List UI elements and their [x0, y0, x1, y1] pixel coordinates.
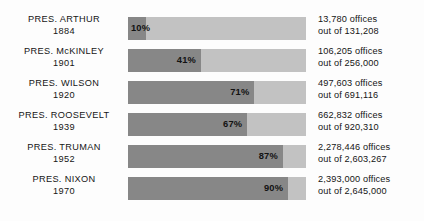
president-name: PRES. TRUMAN	[0, 142, 128, 154]
bar-percent-label: 90%	[264, 177, 283, 200]
offices-count: 662,832 offices	[318, 110, 424, 122]
offices-total: out of 256,000	[318, 58, 424, 70]
bar-wrapper: 41%	[128, 45, 306, 72]
row-value: 106,205 offices out of 256,000	[306, 45, 424, 69]
row-label: PRES. TRUMAN 1952	[0, 141, 128, 165]
president-year: 1939	[0, 122, 128, 134]
offices-count: 13,780 offices	[318, 14, 424, 26]
bar-percent-label: 67%	[223, 113, 242, 136]
bar-percent-label: 87%	[259, 145, 278, 168]
bar-percent-label: 41%	[177, 49, 196, 72]
row-value: 13,780 offices out of 131,208	[306, 13, 424, 37]
bar-wrapper: 90%	[128, 173, 306, 200]
chart-rows: PRES. ARTHUR 1884 10% 13,780 offices out…	[0, 13, 424, 205]
bar-track: 67%	[128, 113, 306, 136]
offices-total: out of 2,603,267	[318, 154, 424, 166]
bar-track: 71%	[128, 81, 306, 104]
bar-track: 41%	[128, 49, 306, 72]
chart-row: PRES. ARTHUR 1884 10% 13,780 offices out…	[0, 13, 424, 45]
bar-wrapper: 10%	[128, 13, 306, 40]
chart-row: PRES. TRUMAN 1952 87% 2,278,446 offices …	[0, 141, 424, 173]
president-year: 1952	[0, 154, 128, 166]
row-label: PRES. NIXON 1970	[0, 173, 128, 197]
chart-row: PRES. McKINLEY 1901 41% 106,205 offices …	[0, 45, 424, 77]
president-year: 1970	[0, 186, 128, 198]
bar-percent-label: 10%	[131, 17, 150, 40]
offices-total: out of 2,645,000	[318, 186, 424, 198]
offices-total: out of 691,116	[318, 90, 424, 102]
row-label: PRES. WILSON 1920	[0, 77, 128, 101]
president-name: PRES. WILSON	[0, 78, 128, 90]
bar-track: 90%	[128, 177, 306, 200]
offices-count: 2,278,446 offices	[318, 142, 424, 154]
offices-count: 106,205 offices	[318, 46, 424, 58]
row-label: PRES. ROOSEVELT 1939	[0, 109, 128, 133]
chart-container: PRES. ARTHUR 1884 10% 13,780 offices out…	[0, 0, 424, 221]
offices-total: out of 920,310	[318, 122, 424, 134]
bar-track: 10%	[128, 17, 306, 40]
offices-count: 497,603 offices	[318, 78, 424, 90]
row-value: 2,393,000 offices out of 2,645,000	[306, 173, 424, 197]
row-value: 662,832 offices out of 920,310	[306, 109, 424, 133]
president-name: PRES. McKINLEY	[0, 46, 128, 58]
president-year: 1884	[0, 26, 128, 38]
bar-percent-label: 71%	[230, 81, 249, 104]
bar-track: 87%	[128, 145, 306, 168]
president-year: 1920	[0, 90, 128, 102]
president-name: PRES. ROOSEVELT	[0, 110, 128, 122]
bar-wrapper: 71%	[128, 77, 306, 104]
bar-wrapper: 87%	[128, 141, 306, 168]
row-value: 497,603 offices out of 691,116	[306, 77, 424, 101]
row-value: 2,278,446 offices out of 2,603,267	[306, 141, 424, 165]
chart-row: PRES. WILSON 1920 71% 497,603 offices ou…	[0, 77, 424, 109]
bar-wrapper: 67%	[128, 109, 306, 136]
president-year: 1901	[0, 58, 128, 70]
row-label: PRES. McKINLEY 1901	[0, 45, 128, 69]
chart-row: PRES. ROOSEVELT 1939 67% 662,832 offices…	[0, 109, 424, 141]
president-name: PRES. ARTHUR	[0, 14, 128, 26]
row-label: PRES. ARTHUR 1884	[0, 13, 128, 37]
offices-count: 2,393,000 offices	[318, 174, 424, 186]
offices-total: out of 131,208	[318, 26, 424, 38]
chart-row: PRES. NIXON 1970 90% 2,393,000 offices o…	[0, 173, 424, 205]
president-name: PRES. NIXON	[0, 174, 128, 186]
